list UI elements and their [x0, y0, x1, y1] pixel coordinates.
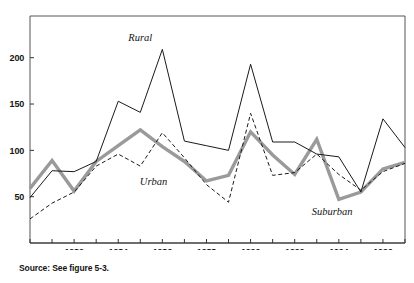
x-tick-label: 1990 — [241, 247, 260, 250]
x-tick-label: 1992 — [285, 247, 304, 250]
x-axis: 19821984198619881990199219941996 — [30, 239, 405, 250]
x-tick-label: 1996 — [373, 247, 392, 250]
chart-plot-area: 50100150200 1982198419861988199019921994… — [0, 0, 414, 250]
series-line-suburban — [30, 130, 405, 199]
series-lines — [30, 49, 405, 219]
x-tick-label: 1984 — [109, 247, 128, 250]
line-chart-svg: 50100150200 1982198419861988199019921994… — [0, 0, 414, 250]
y-tick-label: 200 — [10, 53, 25, 63]
x-tick-label: 1988 — [197, 247, 216, 250]
y-tick-label: 150 — [10, 99, 25, 109]
series-annotations: RuralUrbanSuburban — [127, 32, 352, 217]
x-tick-label: 1994 — [329, 247, 348, 250]
series-label-rural: Rural — [127, 32, 152, 43]
y-tick-label: 100 — [10, 146, 25, 156]
figure-container: 50100150200 1982198419861988199019921994… — [0, 0, 414, 283]
x-tick-label: 1982 — [65, 247, 84, 250]
source-note: Source: See figure 5-3. — [19, 263, 109, 273]
series-label-suburban: Suburban — [312, 206, 353, 217]
y-tick-label: 50 — [14, 192, 24, 202]
x-tick-label: 1986 — [153, 247, 172, 250]
series-label-urban: Urban — [140, 176, 167, 187]
